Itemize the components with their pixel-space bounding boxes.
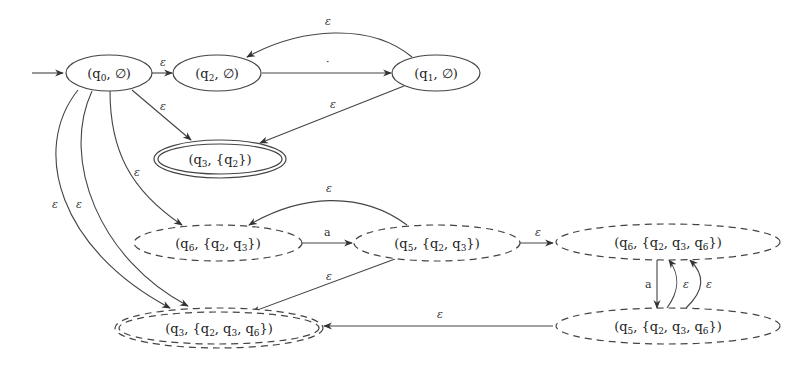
edge-label: ε xyxy=(325,15,331,28)
edge-label: ε xyxy=(76,198,82,211)
state-q1-empty: (q1, ∅) xyxy=(392,55,480,91)
edge-label: ε xyxy=(326,270,332,283)
state-q6-q2q3q6: (q6, {q2, q3, q6}) xyxy=(556,224,780,260)
edge-n7-n6-inner xyxy=(667,260,677,308)
svg-text:(q6, {q2, q3}): (q6, {q2, q3}) xyxy=(175,236,260,253)
edge-label: a xyxy=(324,226,331,239)
edge-label: ε xyxy=(437,308,443,321)
edge-n0-n3 xyxy=(132,90,191,140)
state-q3-q2q3q6-accepting: (q3, {q2, q3, q6}) xyxy=(115,308,323,348)
diagram-svg: ε · ε ε ε ε ε ε a ε ε ε a ε ε ε (q0, ∅) … xyxy=(0,0,792,365)
edge-label: a xyxy=(645,278,652,291)
edge-label: ε xyxy=(160,100,166,113)
edge-n2-n3 xyxy=(260,86,404,143)
edge-label: ε xyxy=(535,226,541,239)
svg-text:(q0, ∅): (q0, ∅) xyxy=(87,66,130,83)
state-q6-q2q3: (q6, {q2, q3}) xyxy=(134,225,302,261)
svg-text:(q5, {q2, q3}): (q5, {q2, q3}) xyxy=(394,236,479,253)
svg-text:(q2, ∅): (q2, ∅) xyxy=(195,66,238,83)
edge-label: ε xyxy=(683,278,689,291)
state-q0-empty: (q0, ∅) xyxy=(66,55,152,91)
edge-label: ε xyxy=(326,182,332,195)
edge-label: ε xyxy=(52,198,58,211)
edge-label: ε xyxy=(330,98,336,111)
edge-label: · xyxy=(326,56,330,69)
edge-label: ε xyxy=(134,166,140,179)
automaton-diagram: ε · ε ε ε ε ε ε a ε ε ε a ε ε ε (q0, ∅) … xyxy=(0,0,792,365)
state-q5-q2q3q6: (q5, {q2, q3, q6}) xyxy=(556,308,780,344)
svg-text:(q1, ∅): (q1, ∅) xyxy=(414,66,457,83)
state-q5-q2q3: (q5, {q2, q3}) xyxy=(354,225,520,261)
edge-label: ε xyxy=(160,56,166,69)
edge-n5-n4 xyxy=(249,201,407,225)
edge-n5-n8 xyxy=(252,259,395,312)
edge-n0-n8-outer xyxy=(56,90,170,308)
state-q3-q2-accepting: (q3, {q2}) xyxy=(154,140,286,178)
edge-n2-n1 xyxy=(247,33,412,57)
svg-text:(q3, {q2}): (q3, {q2}) xyxy=(188,152,251,169)
edge-label: ε xyxy=(706,278,712,291)
state-q2-empty: (q2, ∅) xyxy=(173,55,261,91)
